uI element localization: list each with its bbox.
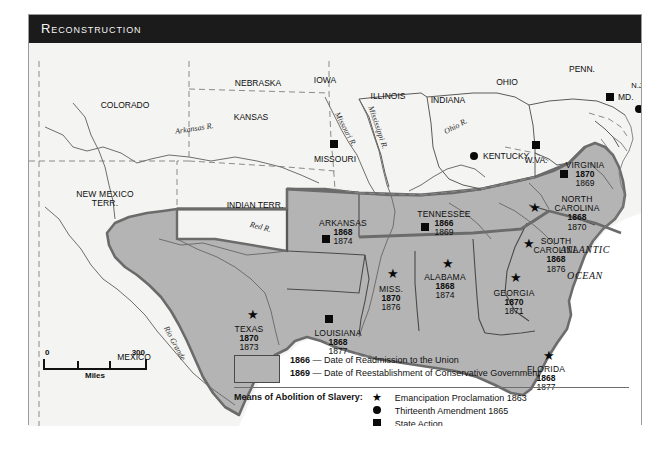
legend-color-swatch	[234, 355, 280, 383]
circle-icon	[371, 405, 383, 416]
square-icon	[371, 418, 383, 426]
legend-item-label: Thirteenth Amendment 1865	[395, 406, 509, 416]
map-figure: Reconstruction	[28, 14, 642, 425]
legend-item-label: State Action	[395, 419, 443, 427]
star-icon: ★	[371, 392, 383, 403]
scale-start: 0	[45, 348, 49, 357]
legend-conservative-year: 1869	[290, 368, 310, 378]
legend-means-block: Means of Abolition of Slavery: ★ Emancip…	[234, 391, 629, 426]
legend-means-title: Means of Abolition of Slavery:	[234, 391, 363, 426]
legend-readmission-line: 1866 — Date of Readmission to the Union	[290, 354, 540, 367]
scale-track: 0 300	[43, 359, 147, 370]
scale-unit-label: Miles	[43, 371, 147, 380]
legend-item-state-action: State Action	[371, 417, 527, 426]
scale-bar: 0 300 Miles	[43, 359, 147, 380]
legend-item-thirteenth-amendment: Thirteenth Amendment 1865	[371, 404, 527, 417]
legend-readmission-text: Date of Readmission to the Union	[324, 355, 459, 365]
legend-dash: —	[313, 368, 322, 378]
legend-readmission-year: 1866	[290, 355, 310, 365]
legend-dates-block: 1866 — Date of Readmission to the Union …	[234, 354, 629, 383]
legend-divider	[234, 387, 629, 388]
legend-conservative-line: 1869 — Date of Reestablishment of Conser…	[290, 367, 540, 380]
map-canvas: VIRGINIA 1870 1869 NORTH CAROLINA 1868 1…	[29, 43, 641, 426]
map-legend: 1866 — Date of Readmission to the Union …	[234, 354, 629, 426]
page-title: Reconstruction	[41, 21, 142, 36]
legend-conservative-text: Date of Reestablishment of Conservative …	[324, 368, 540, 378]
legend-dash: —	[313, 355, 322, 365]
legend-item-emancipation: ★ Emancipation Proclamation 1863	[371, 391, 527, 404]
legend-item-label: Emancipation Proclamation 1863	[395, 393, 527, 403]
scale-end: 300	[132, 348, 145, 357]
map-title-bar: Reconstruction	[29, 15, 641, 43]
